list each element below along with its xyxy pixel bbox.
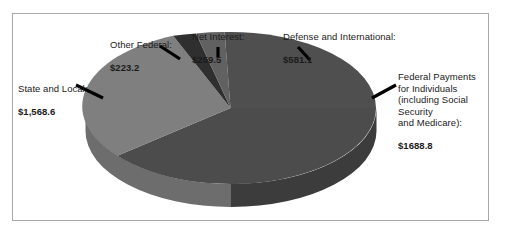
label-net-interest-caption: Net Interest: — [192, 31, 244, 42]
label-federal-payments: Federal Payments for Individuals (includ… — [398, 60, 490, 151]
label-defense-international: Defense and International: $581.1 — [283, 20, 396, 66]
label-defense-international-value: $581.1 — [283, 54, 312, 65]
label-other-federal-caption: Other Federal: — [110, 39, 172, 50]
label-other-federal-value: $223.2 — [110, 62, 139, 73]
label-state-and-local: State and Local: $1,568.6 — [18, 72, 87, 118]
label-state-and-local-caption: State and Local: — [18, 83, 87, 94]
label-defense-international-caption: Defense and International: — [283, 31, 396, 42]
label-other-federal: Other Federal: $223.2 — [110, 28, 172, 74]
label-federal-payments-caption: Federal Payments for Individuals (includ… — [398, 71, 476, 128]
label-net-interest: Net Interest: $259.5 — [192, 20, 244, 66]
label-net-interest-value: $259.5 — [192, 54, 221, 65]
label-state-and-local-value: $1,568.6 — [18, 106, 55, 117]
leader-line-federal-payments — [372, 85, 396, 98]
label-federal-payments-value: $1688.8 — [398, 140, 433, 151]
